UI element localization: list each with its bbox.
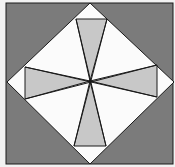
geometry-diagram [0, 0, 175, 167]
center-point [89, 80, 91, 82]
